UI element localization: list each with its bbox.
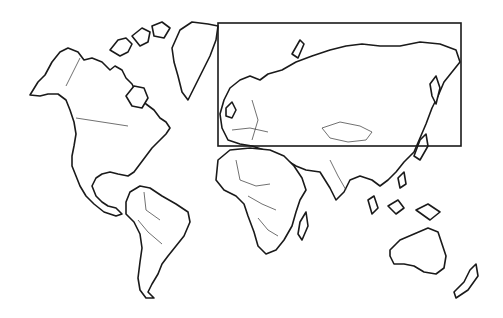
madagascar: [298, 212, 308, 240]
australia: [390, 228, 446, 274]
south-america: [126, 186, 190, 298]
world-map: [0, 0, 503, 318]
novaya-zemlya: [292, 40, 304, 58]
greenland: [172, 22, 218, 100]
new-zealand: [454, 264, 478, 298]
